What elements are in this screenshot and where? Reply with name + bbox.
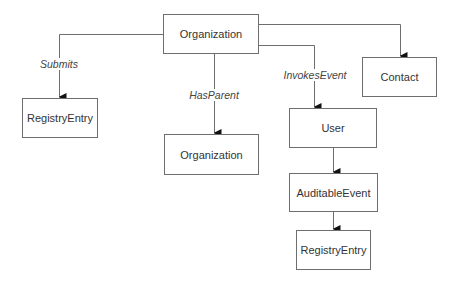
node-organization-root[interactable]: Organization [163, 14, 259, 54]
node-contact[interactable]: Contact [362, 57, 437, 97]
node-organization-parent[interactable]: Organization [164, 134, 259, 175]
edge-label-invokesevent: InvokesEvent [282, 69, 347, 81]
node-label: Organization [180, 149, 242, 161]
node-auditableevent[interactable]: AuditableEvent [289, 173, 378, 212]
edge-label-submits: Submits [39, 58, 79, 70]
node-registryentry-left[interactable]: RegistryEntry [22, 98, 98, 138]
edge-label-hasparent: HasParent [188, 89, 240, 101]
edge-contact [259, 25, 401, 57]
node-label: RegistryEntry [27, 112, 93, 124]
node-registryentry-bottom[interactable]: RegistryEntry [296, 230, 371, 270]
node-label: RegistryEntry [300, 244, 366, 256]
node-label: Contact [381, 71, 419, 83]
node-label: AuditableEvent [297, 187, 371, 199]
node-label: User [321, 122, 344, 134]
node-user[interactable]: User [289, 108, 377, 148]
node-label: Organization [180, 28, 242, 40]
